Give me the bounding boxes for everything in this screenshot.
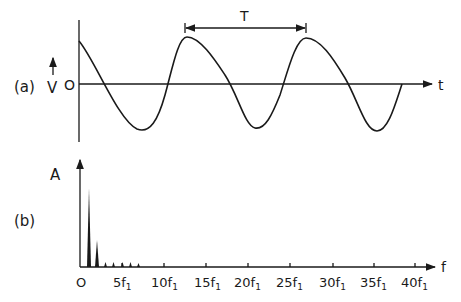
harmonic-7 [137, 263, 140, 267]
harmonic-6 [129, 262, 132, 267]
spectrum-lines [87, 188, 140, 267]
tick-label: 40f1 [401, 275, 428, 292]
tick-label: 35f1 [360, 275, 387, 292]
tick-label: 10f1 [151, 275, 178, 292]
period-label: T [239, 8, 249, 24]
y-axis-label-v: V [47, 79, 58, 97]
f-tick-labels: O 5f1 10f1 15f1 20f1 25f1 30f1 35f1 40f1 [76, 275, 428, 292]
harmonic-1 [87, 188, 91, 267]
panel-b: (b) A f O 5f1 10f1 15f1 20f1 25f1 30f1 3… [14, 160, 447, 292]
panel-b-label: (b) [14, 212, 35, 230]
x-axis-label-f: f [441, 259, 447, 275]
x-axis-label-t: t [438, 77, 444, 93]
figure: (a) V O t T (b) A f O [0, 0, 461, 302]
harmonic-2 [95, 240, 99, 267]
harmonic-4 [112, 262, 115, 267]
origin-label: O [64, 77, 75, 93]
tick-label: 15f1 [194, 275, 221, 292]
panel-a: (a) V O t T [14, 8, 444, 142]
panel-a-label: (a) [14, 78, 35, 96]
tick-label: 30f1 [319, 275, 346, 292]
harmonic-3 [104, 262, 107, 267]
tick-label: 5f1 [113, 275, 132, 292]
tick-label: 25f1 [276, 275, 303, 292]
tick-label: O [76, 275, 86, 290]
y-axis-label-a: A [50, 166, 61, 184]
tick-label: 20f1 [234, 275, 261, 292]
